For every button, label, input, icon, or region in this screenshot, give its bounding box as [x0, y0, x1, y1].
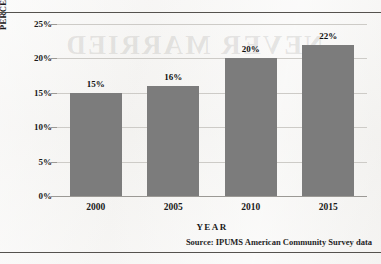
top-horizontal-rule: [0, 12, 381, 13]
bar-value-label: 22%: [319, 31, 337, 41]
bar[interactable]: [70, 93, 122, 196]
plot-area: 0%5%10%15%20%25% 15%16%20%22%: [57, 24, 367, 196]
y-tick-label: 15%: [34, 88, 52, 98]
y-tick-mark: [51, 24, 57, 25]
x-tick-label: 2010: [241, 202, 260, 212]
source-note: Source: IPUMS American Community Survey …: [186, 237, 372, 247]
y-tick-label: 10%: [34, 122, 52, 132]
bar-value-label: 20%: [242, 44, 260, 54]
bar[interactable]: [147, 86, 199, 196]
x-tick-label: 2000: [86, 202, 105, 212]
y-tick-label: 20%: [34, 53, 52, 63]
x-axis-title: YEAR: [57, 222, 367, 232]
y-tick-mark: [51, 196, 57, 197]
y-axis-title: PERCENTAGE OF U.S. ADULTS: [0, 0, 10, 54]
bar-value-label: 16%: [164, 72, 182, 82]
y-tick-mark: [51, 162, 57, 163]
y-tick-mark: [51, 93, 57, 94]
y-tick-label: 0%: [39, 191, 53, 201]
x-tick-label: 2015: [319, 202, 338, 212]
chart-page: NEVER MARRIED PERCENTAGE OF U.S. ADULTS …: [0, 0, 381, 264]
bar[interactable]: [302, 45, 354, 196]
gridline: [57, 24, 367, 25]
y-tick-mark: [51, 127, 57, 128]
bottom-horizontal-rule: [0, 252, 381, 253]
bar-value-label: 15%: [87, 79, 105, 89]
y-tick-mark: [51, 58, 57, 59]
y-tick-label: 25%: [34, 19, 52, 29]
bar[interactable]: [225, 58, 277, 196]
x-axis-line: [57, 196, 367, 197]
x-tick-label: 2005: [164, 202, 183, 212]
y-tick-label: 5%: [39, 157, 53, 167]
